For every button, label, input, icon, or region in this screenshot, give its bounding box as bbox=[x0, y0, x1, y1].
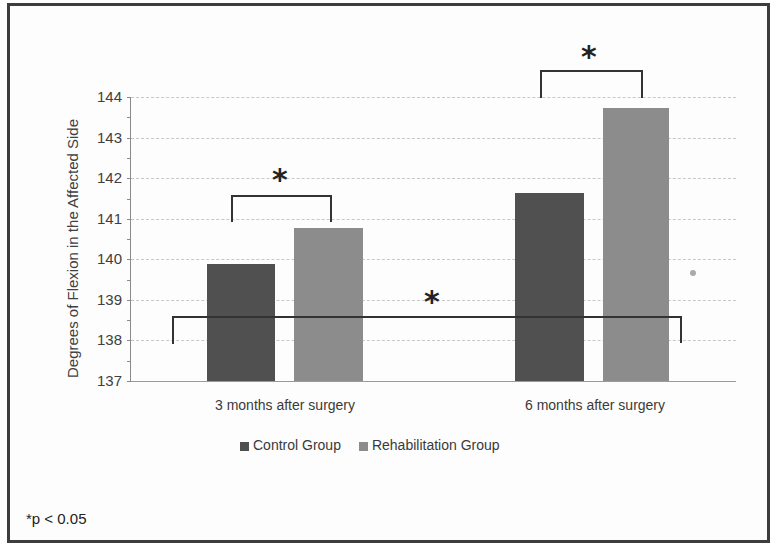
legend-label-rehabilitation: Rehabilitation Group bbox=[372, 437, 500, 453]
legend: Control Group Rehabilitation Group bbox=[240, 437, 500, 453]
legend-label-control: Control Group bbox=[253, 437, 341, 453]
significance-star-3-months: * bbox=[272, 165, 288, 195]
legend-swatch-rehabilitation bbox=[359, 442, 368, 451]
x-category-6-months: 6 months after surgery bbox=[475, 397, 715, 413]
legend-item-rehabilitation: Rehabilitation Group bbox=[359, 437, 500, 453]
significance-brackets bbox=[0, 0, 777, 552]
legend-swatch-control bbox=[240, 442, 249, 451]
footnote: *p < 0.05 bbox=[26, 510, 86, 527]
legend-item-control: Control Group bbox=[240, 437, 341, 453]
significance-star-time: * bbox=[424, 287, 440, 317]
x-category-3-months: 3 months after surgery bbox=[165, 397, 405, 413]
significance-star-6-months: * bbox=[581, 42, 597, 72]
